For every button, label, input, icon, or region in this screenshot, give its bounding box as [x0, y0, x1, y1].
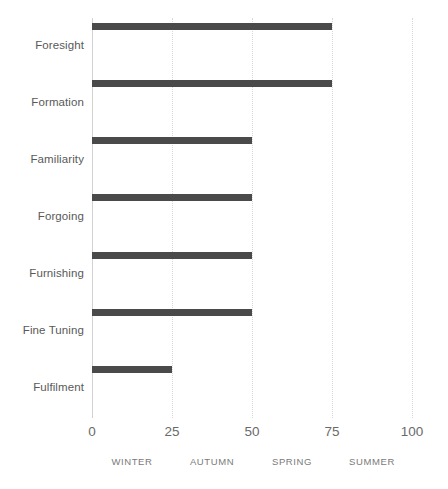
plot-area — [92, 18, 412, 418]
x-tick-label: 0 — [62, 424, 122, 439]
gridline-50 — [252, 18, 254, 418]
season-band-label: SPRING — [247, 456, 337, 467]
x-tick-label: 75 — [302, 424, 362, 439]
category-label: Formation — [4, 96, 84, 108]
bar[interactable] — [92, 23, 332, 30]
gridline-75 — [332, 18, 334, 418]
season-band-labels: WINTERAUTUMNSPRINGSUMMER — [0, 456, 448, 474]
bar[interactable] — [92, 137, 252, 144]
category-axis-labels: ForesightFormationFamiliarityForgoingFur… — [0, 18, 84, 418]
bar[interactable] — [92, 194, 252, 201]
bar[interactable] — [92, 252, 252, 259]
gridline-0 — [92, 18, 93, 418]
bar[interactable] — [92, 309, 252, 316]
x-tick-label: 25 — [142, 424, 202, 439]
gridline-100 — [412, 18, 414, 418]
gridline-25 — [172, 18, 174, 418]
bar[interactable] — [92, 80, 332, 87]
category-label: Foresight — [4, 39, 84, 51]
bar-chart: ForesightFormationFamiliarityForgoingFur… — [0, 0, 448, 489]
category-label: Fulfilment — [4, 381, 84, 393]
category-label: Forgoing — [4, 210, 84, 222]
x-tick-label: 100 — [382, 424, 442, 439]
bar[interactable] — [92, 366, 172, 373]
category-label: Furnishing — [4, 267, 84, 279]
x-axis-tick-labels: 0255075100 — [0, 424, 448, 444]
season-band-label: SUMMER — [327, 456, 417, 467]
season-band-label: WINTER — [87, 456, 177, 467]
season-band-label: AUTUMN — [167, 456, 257, 467]
category-label: Fine Tuning — [4, 324, 84, 336]
category-label: Familiarity — [4, 153, 84, 165]
x-tick-label: 50 — [222, 424, 282, 439]
